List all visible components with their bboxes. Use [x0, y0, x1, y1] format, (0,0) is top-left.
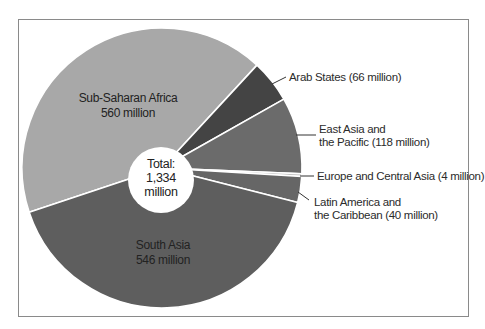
total-label: Total: — [147, 157, 175, 171]
total-unit: million — [144, 185, 178, 199]
leader-line-arab — [272, 77, 286, 84]
total-value: 1,334 — [146, 171, 176, 185]
label-east-asia-line1: East Asia and — [319, 123, 385, 135]
label-south-asia-value: 546 million — [136, 253, 190, 267]
label-latin-america-line1: Latin America and — [314, 196, 401, 208]
label-east-asia-line2: the Pacific (118 million) — [319, 136, 430, 148]
label-europe-central-asia: Europe and Central Asia (4 million) — [317, 170, 485, 182]
label-south-asia-name: South Asia — [136, 238, 191, 252]
label-sub-saharan-africa-name: Sub-Saharan Africa — [79, 91, 178, 105]
donut-chart: Sub-Saharan Africa 560 million South Asi… — [0, 0, 485, 329]
label-latin-america-line2: the Caribbean (40 million) — [314, 209, 438, 221]
label-sub-saharan-africa-value: 560 million — [101, 106, 155, 120]
label-arab-states: Arab States (66 million) — [289, 71, 402, 83]
